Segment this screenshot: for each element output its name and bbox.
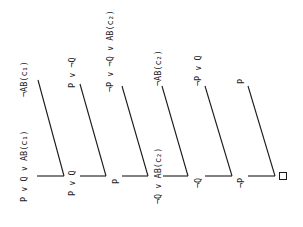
clause-c1: P ∨ Q ∨ AB(c₁): [20, 130, 29, 202]
clause-p-or-not-q: P ∨ ¬Q: [68, 57, 77, 88]
edge-right-6: [248, 86, 275, 176]
edge-right-3: [122, 86, 148, 176]
clause-not-p-or-q: ¬P ∨ Q: [194, 55, 203, 86]
clause-p-or-q: P ∨ Q: [68, 170, 77, 196]
clause-not-p: ¬P: [237, 178, 246, 188]
resolution-diagram: P ∨ Q ∨ AB(c₁) ¬AB(c₁) P ∨ Q P ∨ ¬Q P ¬P…: [0, 0, 303, 227]
clause-not-ab-c1: ¬AB(c₁): [20, 61, 29, 97]
edge-right-2: [80, 84, 106, 176]
tree-edges: [0, 0, 303, 227]
clause-not-ab-c2: ¬AB(c₂): [154, 50, 163, 86]
edge-right-5: [205, 86, 232, 176]
edge-right-1: [38, 80, 64, 176]
clause-not-q-or-ab-c2: ¬Q ∨ AB(c₂): [154, 148, 163, 204]
edge-right-4: [162, 86, 188, 176]
clause-p-1: P: [112, 179, 121, 184]
empty-clause-icon: [279, 172, 287, 180]
clause-not-q: ¬Q: [194, 178, 203, 188]
clause-p-2: P: [237, 79, 246, 84]
clause-c2: ¬P ∨ ¬Q ∨ AB(c₂): [106, 10, 115, 92]
